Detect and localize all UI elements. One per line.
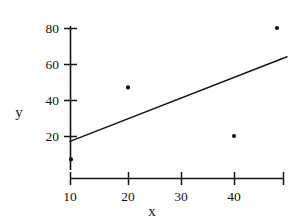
y-axis-title: y	[15, 104, 23, 120]
y-tick-label-20: 20	[46, 129, 60, 144]
x-tick-label-20: 20	[121, 189, 135, 204]
plot-canvas: 80 60 40 20 y 10 20 30 40 x	[0, 0, 301, 222]
x-tick-label-40: 40	[227, 189, 241, 204]
y-tick-label-40: 40	[46, 93, 60, 108]
x-tick-label-10: 10	[63, 189, 77, 204]
x-axis-title: x	[148, 203, 156, 219]
y-tick-label-60: 60	[46, 57, 60, 72]
data-point	[275, 26, 279, 30]
x-tick-label-30: 30	[174, 189, 188, 204]
data-point	[69, 157, 73, 161]
y-tick-label-80: 80	[46, 21, 60, 36]
scatter-plot-figure: 80 60 40 20 y 10 20 30 40 x	[0, 0, 301, 222]
data-point	[126, 85, 130, 89]
regression-line	[70, 57, 287, 142]
data-point	[232, 134, 236, 138]
